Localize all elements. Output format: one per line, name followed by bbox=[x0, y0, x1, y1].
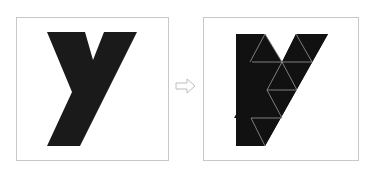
solid-letter-y bbox=[47, 32, 137, 146]
arrow-right-icon bbox=[176, 79, 195, 93]
diagram-canvas bbox=[0, 0, 372, 175]
